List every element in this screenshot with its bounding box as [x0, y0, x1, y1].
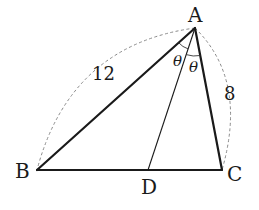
length-label-ac: 8 [224, 83, 235, 104]
angle-arc-bad [179, 43, 189, 49]
side-ac [195, 28, 222, 170]
vertex-label-c: C [227, 162, 242, 186]
vertex-label-a: A [187, 3, 203, 27]
angle-arc-dac [186, 55, 200, 56]
length-label-ab: 12 [92, 63, 115, 84]
theta-label-bad: θ [173, 52, 182, 70]
theta-label-dac: θ [189, 58, 198, 76]
vertex-label-b: B [15, 159, 30, 183]
triangle-diagram: θ θ 12 8 A B C D [0, 0, 259, 210]
vertex-label-d: D [141, 175, 157, 199]
